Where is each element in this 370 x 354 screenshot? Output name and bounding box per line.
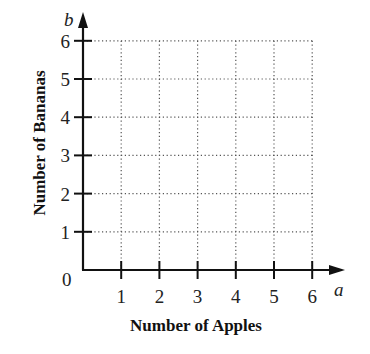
x-axis-arrow-icon (329, 265, 345, 275)
y-axis-arrow-icon (78, 12, 88, 28)
x-tick-label: 2 (155, 286, 165, 307)
y-variable-label: b (64, 9, 74, 30)
tick-labels: 123456123456 (61, 31, 317, 307)
x-tick-label: 1 (116, 286, 126, 307)
coordinate-grid-chart: 123456123456 b a 0 Number of Apples Numb… (0, 0, 370, 354)
axes (78, 12, 345, 275)
origin-label: 0 (62, 269, 72, 290)
y-tick-label: 5 (61, 69, 71, 90)
y-tick-label: 4 (61, 107, 71, 128)
x-tick-label: 4 (231, 286, 241, 307)
dotted-grid (83, 41, 312, 270)
y-tick-label: 2 (61, 184, 71, 205)
y-tick-label: 6 (61, 31, 71, 52)
axis-ticks (74, 41, 312, 279)
x-tick-label: 5 (269, 286, 279, 307)
y-axis-title: Number of Bananas (30, 70, 49, 216)
x-variable-label: a (334, 279, 344, 300)
y-tick-label: 1 (61, 222, 71, 243)
x-tick-label: 3 (193, 286, 203, 307)
x-axis-title: Number of Apples (130, 316, 262, 335)
y-tick-label: 3 (61, 145, 71, 166)
x-tick-label: 6 (307, 286, 317, 307)
